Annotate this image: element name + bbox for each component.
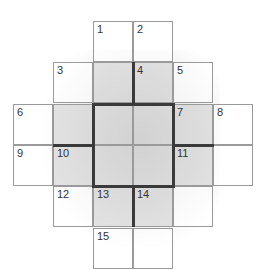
grid-cell-2[interactable]: 2: [133, 21, 173, 62]
grid-cell[interactable]: [173, 186, 213, 227]
grid-cell-11[interactable]: 11: [173, 145, 213, 186]
grid-cell-12[interactable]: 12: [53, 186, 93, 227]
grid-cell-9[interactable]: 9: [13, 145, 53, 186]
clue-number: 9: [17, 148, 23, 159]
clue-number: 10: [57, 148, 69, 159]
grid-cell[interactable]: [133, 145, 173, 186]
clue-number: 2: [137, 24, 143, 35]
clue-number: 5: [177, 65, 183, 76]
crossword-grid: 1 2 3 4 5 6 7 8 9 10 11 12 13 14 15: [0, 0, 267, 270]
grid-cell[interactable]: [53, 104, 93, 145]
clue-number: 6: [17, 107, 23, 118]
grid-cell-1[interactable]: 1: [93, 21, 133, 62]
clue-number: 15: [97, 231, 109, 242]
thick-border-cell-10: [53, 144, 94, 147]
clue-number: 8: [217, 107, 223, 118]
clue-number: 4: [137, 65, 143, 76]
thick-border-cell-14: [132, 186, 135, 227]
grid-cell[interactable]: [133, 104, 173, 145]
clue-number: 11: [177, 148, 188, 159]
grid-cell-7[interactable]: 7: [173, 104, 213, 145]
grid-cell-13[interactable]: 13: [93, 186, 133, 227]
grid-cell[interactable]: [213, 145, 253, 186]
clue-number: 12: [57, 189, 69, 200]
clue-number: 3: [57, 65, 63, 76]
grid-cell-3[interactable]: 3: [53, 62, 93, 103]
grid-cell-8[interactable]: 8: [213, 104, 253, 145]
clue-number: 1: [97, 24, 103, 35]
clue-number: 14: [137, 189, 149, 200]
thick-border-cell-11: [173, 144, 214, 147]
clue-number: 7: [177, 107, 183, 118]
grid-cell-14[interactable]: 14: [133, 186, 173, 227]
grid-cell-6[interactable]: 6: [13, 104, 53, 145]
grid-cell[interactable]: [133, 228, 173, 269]
grid-cell[interactable]: [93, 62, 133, 103]
thick-border-cell-4: [132, 62, 135, 105]
grid-cell-10[interactable]: 10: [53, 145, 93, 186]
grid-cell-5[interactable]: 5: [173, 62, 213, 103]
clue-number: 13: [97, 189, 109, 200]
grid-cell-4[interactable]: 4: [133, 62, 173, 103]
grid-cell[interactable]: [93, 104, 133, 145]
grid-cell[interactable]: [93, 145, 133, 186]
grid-cell-15[interactable]: 15: [93, 228, 133, 269]
